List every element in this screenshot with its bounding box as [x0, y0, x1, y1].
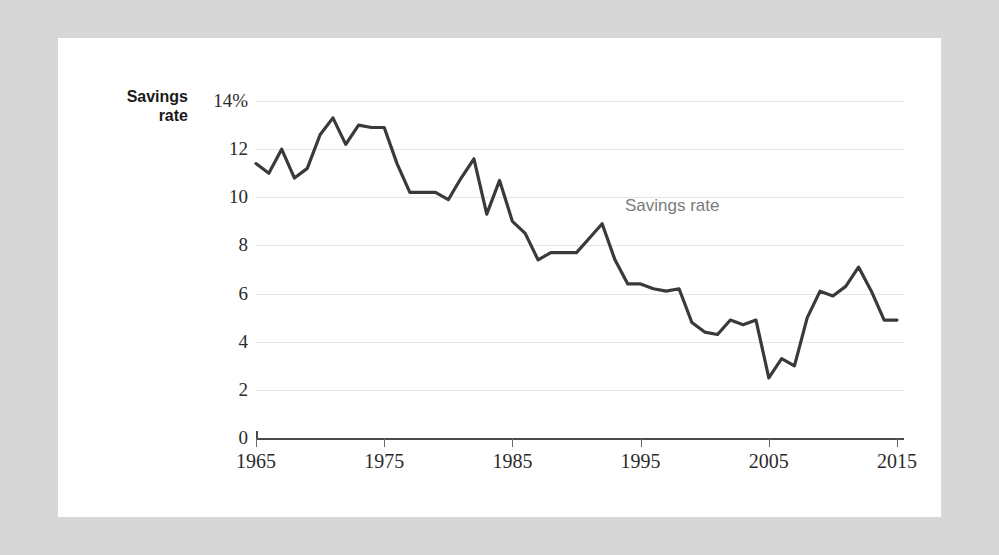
- chart-screenshot: Savings rate 02468101214% 19651975198519…: [0, 0, 999, 555]
- savings-rate-line: [58, 38, 941, 517]
- series-annotation-label: Savings rate: [625, 196, 720, 216]
- plot-area: Savings rate 02468101214% 19651975198519…: [58, 38, 941, 517]
- chart-panel: Savings rate 02468101214% 19651975198519…: [58, 38, 941, 517]
